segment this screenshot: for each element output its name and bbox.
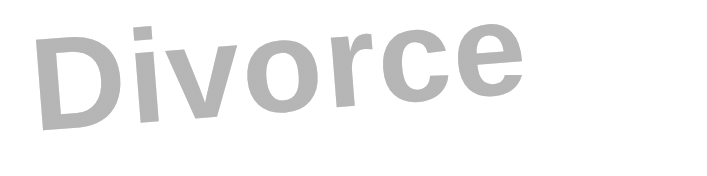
divorce-word: Divorce [26, 0, 533, 152]
image-canvas: Divorce [0, 0, 707, 176]
